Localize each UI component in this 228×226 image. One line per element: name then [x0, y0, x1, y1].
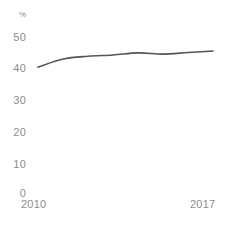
data-series-line	[38, 51, 213, 67]
line-chart: % 50 40 30 20 10 0 2010 2017	[0, 0, 228, 226]
plot-area	[0, 0, 228, 226]
